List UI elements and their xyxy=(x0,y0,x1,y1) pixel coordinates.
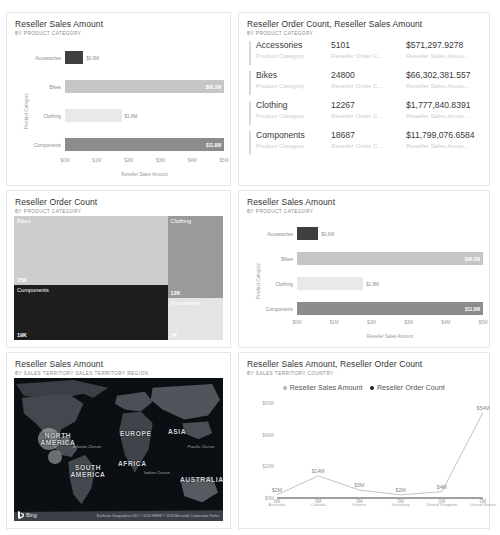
data-point-label-secondary: 0M xyxy=(439,499,445,504)
table-cell: $571,297.9278Reseller Sales Amou... xyxy=(406,39,481,60)
table-title: Reseller Order Count, Reseller Sales Amo… xyxy=(247,19,489,29)
x-axis-tick: $2M xyxy=(367,320,376,325)
bar-segment[interactable]: $66.3M xyxy=(65,80,224,93)
bar2-subtitle: BY PRODUCT CATEGORY xyxy=(247,208,489,215)
legend-label: Reseller Sales Amount xyxy=(290,383,363,392)
table-cell: ComponentsProduct Category xyxy=(256,129,331,150)
table-cell-value: 18687 xyxy=(331,129,406,141)
bar-segment[interactable]: $1.8M xyxy=(297,277,363,290)
table-cell-value: $571,297.9278 xyxy=(406,39,481,51)
bing-mark-icon xyxy=(18,511,24,519)
treemap-cell[interactable]: Components19K xyxy=(14,285,168,340)
map-title: Reseller Sales Amount xyxy=(15,359,230,369)
table-row[interactable]: ComponentsProduct Category18687Reseller … xyxy=(249,129,481,159)
table-cell: 5101Reseller Order C... xyxy=(331,39,406,60)
x-axis-ticks: $0M$1M$2M$3M$4M$5M xyxy=(65,158,224,167)
treemap-area: Bikes25KComponents19KClothing12KAccessor… xyxy=(14,216,223,340)
table-row[interactable]: AccessoriesProduct Category5101Reseller … xyxy=(249,39,481,69)
tile-combo-chart[interactable]: Reseller Sales Amount, Reseller Order Co… xyxy=(238,352,490,529)
x-axis-tick: $3M xyxy=(404,320,413,325)
table-cell: 18687Reseller Order C... xyxy=(331,129,406,150)
bing-logo[interactable]: Bing xyxy=(18,511,37,519)
data-point-label: $2M xyxy=(272,487,282,493)
bar-row[interactable]: Accessories$0.6M xyxy=(65,49,224,66)
data-point-label-secondary: 0M xyxy=(356,499,362,504)
bar-row[interactable]: Components$11.8M xyxy=(297,300,483,317)
tile-header: Reseller Sales Amount BY PRODUCT CATEGOR… xyxy=(7,13,230,37)
treemap-cell-value: 5K xyxy=(171,332,178,338)
treemap-cell[interactable]: Accessories5K xyxy=(168,298,223,340)
bar-segment[interactable]: $1.8M xyxy=(65,109,122,122)
table-cell-field-label: Reseller Sales Amou... xyxy=(406,111,481,120)
bar-segment[interactable]: $66.3M xyxy=(297,252,483,265)
bar-value-label: $0.6M xyxy=(321,231,334,236)
treemap-title: Reseller Order Count xyxy=(15,197,230,207)
x-axis-tick: $0M xyxy=(61,158,70,163)
y-axis-tick: $0M xyxy=(265,496,274,501)
combo-subtitle: BY SALES TERRITORY COUNTRY xyxy=(247,370,489,377)
bar-segment[interactable]: $11.8M xyxy=(297,302,483,315)
table-cell-field-label: Product Category xyxy=(256,51,331,60)
bar-plot: Accessories$0.6MBikes$66.3MClothing$1.8M… xyxy=(65,43,224,159)
map-label-atlantic-ocean: Atlantic Ocean xyxy=(72,444,102,450)
tile-bar-top-left[interactable]: Reseller Sales Amount BY PRODUCT CATEGOR… xyxy=(6,12,231,186)
x-axis-title: Reseller Sales Amount xyxy=(297,334,483,339)
treemap-cell-value: 25K xyxy=(17,277,27,283)
table-subtitle: BY PRODUCT CATEGORY xyxy=(247,30,489,37)
table-cell: BikesProduct Category xyxy=(256,69,331,90)
bar-row[interactable]: Clothing$1.8M xyxy=(65,107,224,124)
data-point-label-secondary: 0M xyxy=(480,499,486,504)
map-label-south-america: SOUTH AMERICA xyxy=(64,464,112,478)
x-axis-tick: $3M xyxy=(156,158,165,163)
bar-value-label: $66.3M xyxy=(465,256,480,261)
tile-bar-mid-right[interactable]: Reseller Sales Amount BY PRODUCT CATEGOR… xyxy=(238,190,490,348)
treemap-subtitle: BY PRODUCT CATEGORY xyxy=(15,208,230,215)
map-area[interactable]: NORTH AMERICA EUROPE ASIA AFRICA SOUTH A… xyxy=(14,378,223,521)
table-cell-value: $66,302,381.557 xyxy=(406,69,481,81)
bar-value-label: $1.8M xyxy=(125,113,138,118)
chart-legend[interactable]: Reseller Sales AmountReseller Order Coun… xyxy=(239,383,489,392)
data-point-label: $54M xyxy=(477,405,490,411)
tile-header: Reseller Order Count BY PRODUCT CATEGORY xyxy=(7,191,230,215)
bar-row[interactable]: Components$11.8M xyxy=(65,136,224,153)
tile-table[interactable]: Reseller Order Count, Reseller Sales Amo… xyxy=(238,12,490,186)
bar-row[interactable]: Accessories$0.6M xyxy=(297,225,483,242)
table-row[interactable]: ClothingProduct Category12267Reseller Or… xyxy=(249,99,481,129)
bar-chart-area: Product Category Accessories$0.6MBikes$6… xyxy=(239,215,489,347)
treemap-cell[interactable]: Bikes25K xyxy=(14,216,168,285)
table-cell-field-label: Reseller Order C... xyxy=(331,111,406,120)
x-axis-title: Reseller Sales Amount xyxy=(65,172,224,177)
combo-plot: $0M$20M$40M$60MAustraliaCanadaFranceGerm… xyxy=(277,403,483,498)
bar-category-label: Bikes xyxy=(49,84,61,89)
data-point-label-secondary: 0M xyxy=(274,499,280,504)
tile-treemap[interactable]: Reseller Order Count BY PRODUCT CATEGORY… xyxy=(6,190,231,348)
bar-segment[interactable]: $0.6M xyxy=(297,227,318,240)
combo-title: Reseller Sales Amount, Reseller Order Co… xyxy=(247,359,489,369)
data-point-label: $5M xyxy=(354,482,364,488)
treemap-cell[interactable]: Clothing12K xyxy=(168,216,223,298)
treemap-cell-name: Bikes xyxy=(17,218,31,224)
table-cell-value: $1,777,840.8391 xyxy=(406,99,481,111)
table-row[interactable]: BikesProduct Category24800Reseller Order… xyxy=(249,69,481,99)
x-axis-tick: $2M xyxy=(124,158,133,163)
table-body: AccessoriesProduct Category5101Reseller … xyxy=(249,39,481,159)
bar-category-label: Components xyxy=(266,306,293,311)
tile-map[interactable]: Reseller Sales Amount BY SALES TERRITORY… xyxy=(6,352,231,529)
table-cell-value: 5101 xyxy=(331,39,406,51)
bar-value-label: $66.3M xyxy=(206,84,221,89)
bar-segment[interactable]: $11.8M xyxy=(65,138,224,151)
bar-row[interactable]: Clothing$1.8M xyxy=(297,275,483,292)
data-point-label: $14M xyxy=(312,468,325,474)
legend-item[interactable]: Reseller Sales Amount xyxy=(283,383,362,392)
data-point-label: $2M xyxy=(396,487,406,493)
data-point-label: $4M xyxy=(437,484,447,490)
bar-row[interactable]: Bikes$66.3M xyxy=(65,78,224,95)
bar-category-label: Accessories xyxy=(35,55,61,60)
bar-row[interactable]: Bikes$66.3M xyxy=(297,250,483,267)
bar-category-label: Clothing xyxy=(275,281,293,286)
x-axis-tick: $1M xyxy=(92,158,101,163)
table-cell-value: 24800 xyxy=(331,69,406,81)
bar2-title: Reseller Sales Amount xyxy=(247,197,489,207)
legend-item[interactable]: Reseller Order Count xyxy=(370,383,444,392)
bar-segment[interactable]: $0.6M xyxy=(65,51,83,64)
